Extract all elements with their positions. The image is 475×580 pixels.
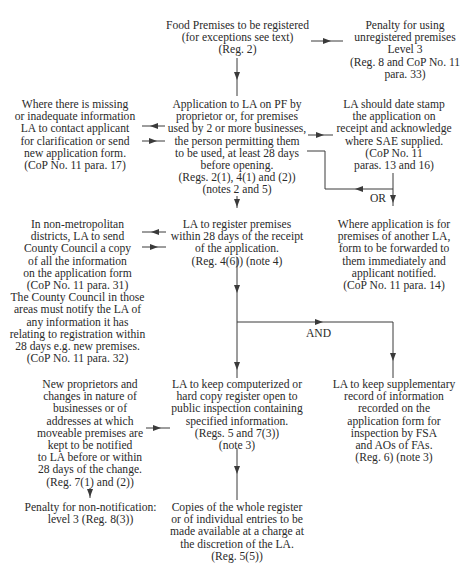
node-application: Application to LA on PF by proprietor or…	[164, 99, 310, 197]
node-line: recorded on the	[330, 403, 458, 415]
node-register-premises: LA to register premises within 28 days o…	[164, 219, 310, 268]
node-line: Level 3	[340, 44, 470, 56]
edge-label-and: AND	[306, 328, 331, 340]
node-county-council: In non-metropolitan districts, LA to sen…	[5, 219, 150, 365]
node-another-la: Where application is for premises of ano…	[330, 219, 458, 292]
node-line: made available at a charge at	[164, 526, 310, 538]
node-penalty-notification: Penalty for non-notification: level 3 (R…	[18, 502, 163, 526]
node-line: (Reg. 6) (note 3)	[330, 452, 458, 464]
node-line: for clarification or send	[5, 136, 145, 148]
node-line: them immediately and	[330, 256, 458, 268]
node-supplementary-record: LA to keep supplementary record of infor…	[330, 379, 458, 464]
node-line: businesses or of	[20, 403, 160, 415]
node-line: of all the information	[5, 256, 150, 268]
node-line: where SAE supplied.	[333, 136, 455, 148]
node-line: of the application.	[164, 243, 310, 255]
node-line: form to be forwarded to	[330, 243, 458, 255]
node-line: public inspection containing	[164, 403, 310, 415]
node-line: paras. 13 and 16)	[333, 160, 455, 172]
node-line: (Reg. 4(6)) (note 4)	[164, 256, 310, 268]
node-date-stamp: LA should date stamp the application on …	[333, 99, 455, 172]
node-line: any information it has	[5, 317, 150, 329]
node-line: addresses at which	[20, 416, 160, 428]
node-line: receipt and acknowledge	[333, 123, 455, 135]
edge-food-to-penalty	[311, 38, 343, 44]
edge-application-to-missing	[142, 123, 165, 129]
node-line: County Council a copy	[5, 243, 150, 255]
node-line: (notes 2 and 5)	[164, 184, 310, 196]
node-keep-register: LA to keep computerized or hard copy reg…	[164, 379, 310, 452]
node-line: (CoP No. 11 para. 17)	[5, 160, 145, 172]
edge-application-to-datestamp	[308, 132, 333, 138]
node-penalty-unregistered: Penalty for using unregistered premises …	[340, 20, 470, 81]
edge-missing-to-application	[142, 138, 165, 144]
edge-application-to-register	[234, 196, 240, 208]
node-line: (note 3)	[164, 440, 310, 452]
node-line: areas must notify the LA of	[5, 304, 150, 316]
node-line: (Reg. 5(5))	[164, 551, 310, 563]
edge-newprop-to-penalty	[87, 488, 93, 498]
edge-label-or: OR	[370, 193, 386, 205]
node-line: LA to contact applicant	[5, 123, 145, 135]
edge-food-to-application	[234, 58, 240, 96]
node-line: (Reg. 8 and CoP No. 11	[340, 57, 470, 69]
node-line: level 3 (Reg. 8(3))	[18, 514, 163, 526]
node-line: (CoP No. 11 para. 32)	[5, 353, 150, 365]
node-line: application form for	[330, 416, 458, 428]
node-line: the person permitting them	[164, 136, 310, 148]
node-line: 28 days of the change.	[20, 464, 160, 476]
node-copies-register: Copies of the whole register or of indiv…	[164, 502, 310, 563]
node-line: para. 33)	[340, 69, 470, 81]
node-food-premises: Food Premises to be registered (for exce…	[160, 20, 315, 57]
node-line: used by 2 or more businesses,	[164, 123, 310, 135]
node-line: (Reg. 7(1) and (2))	[20, 477, 160, 489]
node-line: the discretion of the LA.	[164, 539, 310, 551]
node-line: (CoP No. 11 para. 14)	[330, 280, 458, 292]
node-line: specified information.	[164, 416, 310, 428]
edge-register-to-copies	[234, 449, 240, 500]
node-new-proprietors: New proprietors and changes in nature of…	[20, 379, 160, 489]
node-missing-info: Where there is missing or inadequate inf…	[5, 99, 145, 172]
node-line: (Reg. 2)	[160, 44, 315, 56]
